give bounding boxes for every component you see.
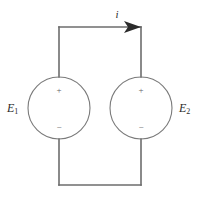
right-source-label: E2: [178, 101, 190, 116]
left-source-label: E1: [6, 101, 18, 116]
current-label: i: [115, 8, 118, 20]
circuit-diagram-container: i + − E1 + − E2: [0, 0, 201, 198]
left-source-plus-sign: +: [56, 85, 61, 95]
circuit-schematic: i + − E1 + − E2: [0, 0, 201, 198]
right-source-plus-sign: +: [138, 85, 143, 95]
right-source-label-subscript: 2: [186, 107, 190, 116]
left-source-minus-sign: −: [56, 122, 61, 132]
right-source-minus-sign: −: [138, 122, 143, 132]
left-source-label-subscript: 1: [14, 107, 18, 116]
